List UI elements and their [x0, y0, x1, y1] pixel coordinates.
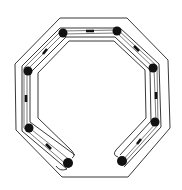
- dash-marks: [26, 31, 156, 149]
- tube: [22, 28, 161, 170]
- octagon-diagram: [0, 0, 182, 190]
